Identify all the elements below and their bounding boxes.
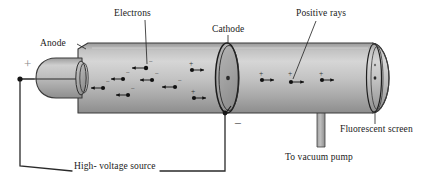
svg-text:−: − — [178, 77, 182, 85]
figure-canvas: − − − − − − + — [0, 0, 435, 186]
svg-text:+: + — [189, 59, 193, 68]
svg-text:−: − — [131, 85, 135, 93]
svg-text:−: − — [149, 58, 153, 66]
label-electrons: Electrons — [114, 8, 151, 18]
cathode-disc — [216, 43, 240, 113]
anode-neck — [34, 58, 82, 98]
label-anode: Anode — [40, 38, 66, 48]
label-high-voltage-source: High- voltage source — [74, 161, 156, 171]
label-fluorescent-screen: Fluorescent screen — [340, 124, 413, 134]
svg-text:+: + — [191, 87, 195, 96]
svg-text:+: + — [259, 69, 263, 78]
positive-terminal-sign: + — [24, 57, 31, 70]
svg-text:−: − — [106, 78, 110, 86]
negative-terminal-sign: − — [234, 117, 241, 130]
svg-text:+: + — [319, 69, 323, 78]
label-vacuum-pump: To vacuum pump — [285, 152, 353, 162]
label-positive-rays: Positive rays — [296, 8, 346, 18]
svg-text:−: − — [126, 69, 130, 77]
label-cathode: Cathode — [212, 24, 244, 34]
svg-text:−: − — [155, 70, 159, 78]
positive-terminal-node — [17, 76, 22, 81]
svg-text:+: + — [288, 69, 292, 78]
anode-ring — [76, 61, 88, 95]
